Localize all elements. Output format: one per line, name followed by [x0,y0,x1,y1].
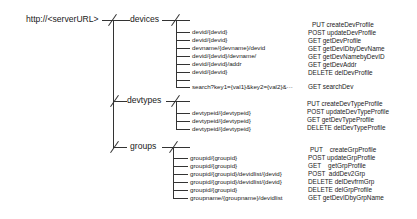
devices-operation: POST updateDevProfile [308,30,376,36]
groups-operation: POST addDev2Grp [308,171,365,177]
devices-operation: GET getDevAddr [308,62,357,68]
devices-leaf-line [176,87,190,88]
devices-leaf-line [176,40,190,41]
devtypes-branch-line [113,101,127,102]
devices-path: search?key1={val1}&key2={val2}&··· [192,84,293,90]
groups-path: groupid/{groupid}/devidlist/{devid} [190,179,282,185]
groups-operation: POST updateGrpProfile [308,155,375,161]
groups-leaf-line [173,198,188,199]
groups-path: groupid/{groupid} [190,155,237,161]
devtypes-path: devtypeid/{devtypeid} [192,118,251,124]
branch-groups-label: groups [130,142,156,151]
devices-trunk [176,20,177,87]
devtypes-operation: POST updateDevTypeProfile [307,109,389,115]
devtypes-connector [166,101,190,102]
groups-leaf-line [173,158,188,159]
devices-path: devid/{devid}/devname/ [192,53,256,59]
groups-leaf-line [173,182,188,183]
devices-operation: GET searchDev [308,84,353,90]
branch-devtypes-label: devtypes [127,96,161,105]
devices-leaf-line [176,56,190,57]
devices-leaf-line [176,32,190,33]
groups-path: groupname/{groupname}/devidlist [190,195,283,201]
groups-operation: DELETE delGrpProfile [308,187,372,193]
devices-path: devid/{devid} [192,29,227,35]
devices-leaf-line [176,72,190,73]
groups-leaf-line [173,190,188,191]
devtypes-operation: PUT createDevTypeProfile [307,101,383,107]
devices-leaf-line [176,80,190,81]
groups-operation: DELETE delDevfrmGrp [308,179,374,185]
devices-leaf-line [176,48,190,49]
devices-path: devid/{devid} [192,37,227,43]
devtypes-leaf-line [176,129,190,130]
devices-operation: PUT createDevProfile [312,22,374,28]
devices-path: devid/{devid}/addr [192,61,242,67]
devices-operation: DELETE delDevProfile [308,70,373,76]
devices-operation: GET getDevNamebyDevID [308,54,385,60]
devtypes-path: devtypeid/{devtypeid} [192,110,251,116]
root-trunk [113,20,114,147]
groups-branch-line [113,147,127,148]
groups-connector [162,147,190,148]
branch-devices-label: devices [130,15,159,24]
devices-operation: GET getDevProfile [308,38,361,44]
groups-path: groupid/{groupid}/devidlist/{devid} [190,171,282,177]
groups-operation: GET getGrpProfile [308,163,366,169]
root-url-label: http://<serverURL> [26,15,99,24]
root-connector [102,20,130,21]
devtypes-path: devtypeid/{devtypeid} [192,126,251,132]
devices-operation: GET getDevIDbyDevName [308,46,385,52]
groups-operation: PUT createGrpProfile [310,147,376,153]
devtypes-leaf-line [176,113,190,114]
devtypes-operation: GET getDevTypeProfile [307,117,374,123]
groups-operation: GET getDevIDbyGrpName [308,195,384,201]
devices-leaf-line [176,64,190,65]
devices-path: devid/{devid} [192,69,227,75]
devtypes-operation: DELETE delDevTypeProfile [307,125,386,131]
groups-trunk [173,147,174,199]
groups-leaf-line [173,174,188,175]
devices-path: devname/{devname}/devid [192,45,265,51]
groups-leaf-line [173,166,188,167]
devtypes-leaf-line [176,121,190,122]
devtypes-trunk [176,101,177,130]
groups-path: groupid/{groupid} [190,187,237,193]
groups-path: groupid/{groupid} [190,163,237,169]
